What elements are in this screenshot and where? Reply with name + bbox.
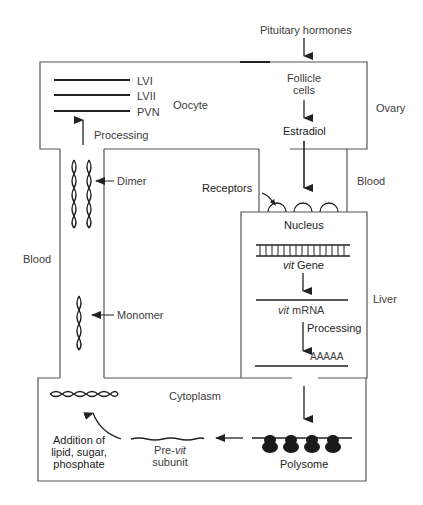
liver-outline xyxy=(241,212,367,378)
addition-line3: phosphate xyxy=(53,458,104,470)
diagram-canvas xyxy=(0,0,423,505)
blood-right-label: Blood xyxy=(357,175,385,187)
pre-vit-line2: subunit xyxy=(152,456,187,468)
vit-gene-italic: vit xyxy=(283,259,294,271)
vit-mrna-rest: mRNA xyxy=(289,304,324,316)
vit-mrna-italic: vit xyxy=(278,304,289,316)
blood-left-label: Blood xyxy=(23,253,51,265)
addition-line2: lipid, sugar, xyxy=(51,446,107,458)
band-pvn-label: PVN xyxy=(137,106,160,118)
vit-gene-label: vit Gene xyxy=(283,259,324,271)
pre-vit-subunit-label: Pre-vit subunit xyxy=(140,444,200,468)
monomer-label: Monomer xyxy=(117,309,163,321)
estradiol-label: Estradiol xyxy=(283,125,326,137)
addition-line1: Addition of xyxy=(53,434,105,446)
band-lvii-label: LVII xyxy=(137,90,156,102)
oocyte-processing-label: Processing xyxy=(94,129,148,141)
follicle-line2: cells xyxy=(293,84,315,96)
vit-gene-rest: Gene xyxy=(294,259,324,271)
oocyte-label: Oocyte xyxy=(173,99,208,111)
vit-mrna-label: vit mRNA xyxy=(278,304,324,316)
dimer-label: Dimer xyxy=(117,175,146,187)
liver-processing-label: Processing xyxy=(307,322,361,334)
follicle-line1: Follicle xyxy=(287,72,321,84)
band-lvi-label: LVI xyxy=(137,75,153,87)
polya-tail-label: AAAAA xyxy=(310,351,343,363)
receptors-label: Receptors xyxy=(202,182,252,194)
liver-region-label: Liver xyxy=(373,293,397,305)
pre-vit-prefix: Pre- xyxy=(154,444,175,456)
polysome-label: Polysome xyxy=(280,458,328,470)
ovary-region-label: Ovary xyxy=(376,102,405,114)
pre-vit-italic: vit xyxy=(175,444,186,456)
pituitary-hormones-label: Pituitary hormones xyxy=(260,24,352,36)
addition-label: Addition of lipid, sugar, phosphate xyxy=(44,434,114,470)
follicle-cells-label: Follicle cells xyxy=(282,72,326,96)
cytoplasm-label: Cytoplasm xyxy=(169,390,221,402)
nucleus-label: Nucleus xyxy=(284,219,324,231)
